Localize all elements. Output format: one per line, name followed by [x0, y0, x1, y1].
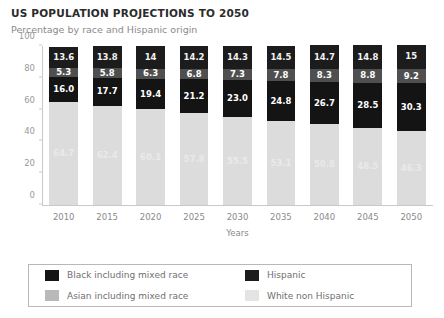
bar-segment-value: 21.2	[184, 92, 205, 101]
bar-segment-white[interactable]: 46.3	[397, 131, 426, 205]
bar-group[interactable]: 55.523.07.314.3	[223, 46, 252, 205]
bar-segment-value: 48.5	[357, 162, 378, 171]
chart-title: US POPULATION PROJECTIONS TO 2050	[11, 7, 249, 19]
bar-segment-value: 5.8	[100, 69, 115, 78]
bar-segment-hispanic[interactable]: 13.8	[93, 46, 122, 68]
bar-segment-value: 14.3	[227, 53, 248, 62]
bar-segment-value: 50.8	[314, 160, 335, 169]
bar-segment-value: 6.3	[143, 69, 158, 78]
bar-group[interactable]: 46.330.39.215	[397, 46, 426, 205]
x-axis-tick-label: 2050	[400, 205, 422, 222]
bar-segment-value: 16.0	[53, 85, 74, 94]
bar-segment-black[interactable]: 24.8	[267, 81, 296, 120]
bar-segment-asian[interactable]: 6.3	[136, 69, 165, 79]
bar-segment-asian[interactable]: 8.8	[353, 69, 382, 83]
bar-segment-value: 28.5	[357, 101, 378, 110]
bar-segment-hispanic[interactable]: 14.7	[310, 45, 339, 68]
bar-segment-white[interactable]: 53.1	[267, 121, 296, 205]
x-axis-tick-label: 2040	[314, 205, 336, 222]
legend-item-black[interactable]: Black including mixed race	[45, 270, 245, 281]
bar-segment-white[interactable]: 62.4	[93, 106, 122, 205]
bar-segment-value: 14.5	[270, 53, 291, 62]
bar-segment-value: 13.8	[97, 53, 118, 62]
y-axis-tick-label: 60	[24, 95, 42, 105]
legend-item-hispanic[interactable]: Hispanic	[245, 270, 411, 281]
legend-item-asian[interactable]: Asian including mixed race	[45, 290, 245, 301]
bar-segment-asian[interactable]: 7.8	[267, 69, 296, 81]
bar-segment-value: 14	[145, 53, 157, 62]
y-axis-tick-label: 0	[30, 190, 42, 200]
y-axis-tick-mark	[39, 76, 42, 77]
bar-group[interactable]: 53.124.87.814.5	[267, 46, 296, 205]
bar-segment-value: 60.1	[140, 153, 161, 162]
bar-segment-value: 7.3	[230, 70, 245, 79]
bar-segment-black[interactable]: 21.2	[180, 79, 209, 113]
bar-segment-value: 24.8	[270, 97, 291, 106]
bar-group[interactable]: 60.119.46.314	[136, 46, 165, 205]
legend-label: White non Hispanic	[267, 291, 354, 301]
bar-segment-hispanic[interactable]: 14.3	[223, 46, 252, 69]
bar-segment-black[interactable]: 28.5	[353, 83, 382, 128]
bar-segment-value: 9.2	[404, 72, 419, 81]
bar-segment-value: 14.2	[184, 53, 205, 62]
bar-segment-black[interactable]: 23.0	[223, 80, 252, 117]
bar-segment-value: 26.7	[314, 99, 335, 108]
legend-item-white[interactable]: White non Hispanic	[245, 290, 411, 301]
y-axis-tick-label: 100	[19, 31, 42, 41]
bar-segment-value: 23.0	[227, 94, 248, 103]
bar-group[interactable]: 57.821.26.814.2	[180, 46, 209, 205]
bar-segment-hispanic[interactable]: 14.2	[180, 46, 209, 69]
chart-legend: Black including mixed raceHispanicAsian …	[28, 264, 412, 307]
bar-segment-hispanic[interactable]: 15	[397, 45, 426, 69]
legend-swatch-black	[45, 270, 59, 281]
bar-segment-white[interactable]: 57.8	[180, 113, 209, 205]
bar-segment-value: 17.7	[97, 87, 118, 96]
bar-group[interactable]: 64.716.05.313.6	[49, 46, 78, 205]
y-axis-tick-label: 20	[24, 158, 42, 168]
bar-segment-white[interactable]: 64.7	[49, 102, 78, 205]
bar-segment-black[interactable]: 26.7	[310, 82, 339, 124]
plot-area: 02040608010064.716.05.313.662.417.75.813…	[42, 46, 433, 205]
legend-swatch-asian	[45, 290, 59, 301]
bar-segment-asian[interactable]: 5.3	[49, 68, 78, 76]
bar-segment-black[interactable]: 16.0	[49, 77, 78, 102]
bar-segment-hispanic[interactable]: 13.6	[49, 47, 78, 69]
bar-segment-value: 8.8	[360, 71, 375, 80]
bar-group[interactable]: 50.826.78.314.7	[310, 46, 339, 205]
x-axis-tick-label: 2035	[270, 205, 292, 222]
bar-segment-value: 5.3	[56, 68, 71, 76]
legend-swatch-hispanic	[245, 270, 259, 281]
x-axis-tick-label: 2010	[53, 205, 75, 222]
bar-segment-value: 15	[405, 52, 417, 61]
y-axis-tick-mark	[39, 108, 42, 109]
y-axis-tick-mark	[39, 45, 42, 46]
legend-label: Black including mixed race	[67, 270, 188, 280]
bar-segment-asian[interactable]: 7.3	[223, 69, 252, 81]
bar-segment-white[interactable]: 55.5	[223, 117, 252, 205]
bar-segment-asian[interactable]: 9.2	[397, 69, 426, 84]
bar-segment-hispanic[interactable]: 14.5	[267, 46, 296, 69]
bar-segment-asian[interactable]: 5.8	[93, 68, 122, 77]
bar-segment-value: 14.7	[314, 53, 335, 62]
bar-segment-white[interactable]: 60.1	[136, 109, 165, 205]
bar-segment-value: 6.8	[187, 70, 202, 79]
x-axis-tick-label: 2020	[140, 205, 162, 222]
bar-segment-value: 13.6	[53, 53, 74, 62]
bar-group[interactable]: 62.417.75.813.8	[93, 46, 122, 205]
bar-segment-black[interactable]: 17.7	[93, 78, 122, 106]
x-axis-tick-label: 2025	[183, 205, 205, 222]
bar-segment-asian[interactable]: 8.3	[310, 69, 339, 82]
bar-segment-white[interactable]: 50.8	[310, 124, 339, 205]
bar-segment-black[interactable]: 30.3	[397, 83, 426, 131]
bar-segment-value: 19.4	[140, 90, 161, 99]
bar-segment-white[interactable]: 48.5	[353, 128, 382, 205]
bar-segment-hispanic[interactable]: 14.8	[353, 45, 382, 69]
legend-label: Hispanic	[267, 270, 305, 280]
bar-segment-hispanic[interactable]: 14	[136, 46, 165, 68]
bar-group[interactable]: 48.528.58.814.8	[353, 46, 382, 205]
bar-segment-value: 7.8	[273, 71, 288, 80]
y-axis-tick-mark	[39, 204, 42, 205]
bar-segment-asian[interactable]: 6.8	[180, 69, 209, 80]
x-axis-tick-label: 2015	[96, 205, 118, 222]
bar-segment-black[interactable]: 19.4	[136, 79, 165, 110]
